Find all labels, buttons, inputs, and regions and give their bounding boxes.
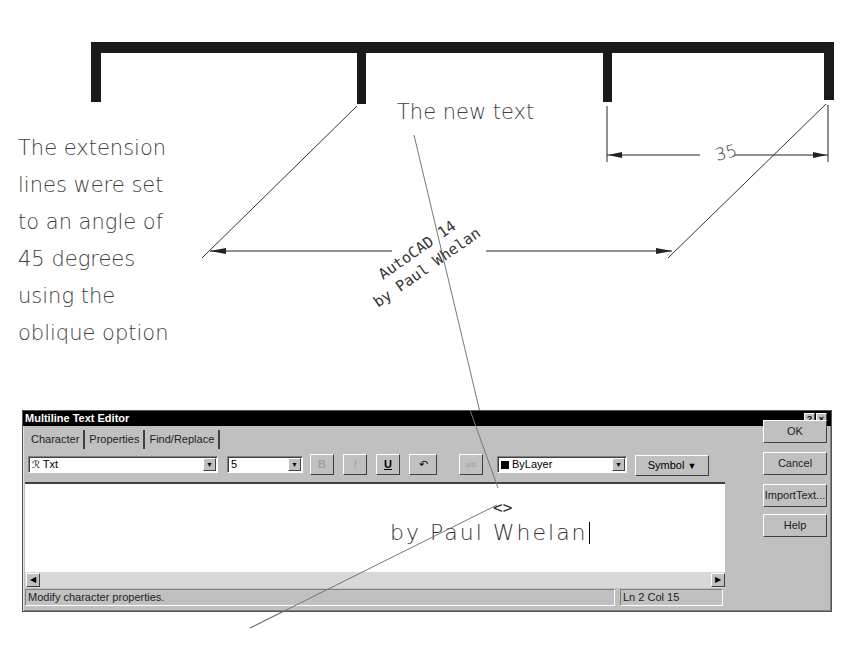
text-caret [589, 522, 590, 544]
scroll-right-icon[interactable]: ▶ [711, 573, 725, 587]
height-select[interactable]: 5 ▼ [227, 456, 303, 473]
frame-outline [91, 42, 834, 104]
editor-line-1: <> [493, 498, 512, 517]
bold-button[interactable]: B [310, 454, 334, 475]
cancel-button[interactable]: Cancel [763, 452, 827, 475]
tab-strip: Character Properties Find/Replace [27, 430, 220, 449]
oblique-dimension-text: AutoCAD 14 by Paul Whelan [359, 207, 484, 311]
color-select[interactable]: ByLayer ▼ [497, 456, 627, 473]
font-select[interactable]: ℛ Txt ▼ [28, 456, 218, 473]
side-note: The extension lines were set to an angle… [18, 130, 208, 352]
side-note-line: using the [18, 278, 208, 315]
side-note-line: The extension [18, 130, 208, 167]
import-text-button[interactable]: ImportText... [763, 484, 827, 507]
chevron-down-icon[interactable]: ▼ [288, 458, 301, 471]
cursor-position: Ln 2 Col 15 [620, 589, 723, 606]
horizontal-scrollbar[interactable]: ◀ ▶ [25, 572, 725, 588]
ok-button[interactable]: OK [763, 420, 827, 443]
undo-button[interactable]: ↶ [409, 454, 437, 475]
font-icon: ℛ [32, 459, 40, 470]
caret-down-icon: ▼ [687, 461, 696, 471]
color-swatch [501, 461, 509, 469]
editor-line-2-text: by Paul Whelan [390, 520, 588, 545]
underline-button[interactable]: U [376, 454, 400, 475]
dialog-title: Multiline Text Editor [25, 412, 129, 424]
chevron-down-icon[interactable]: ▼ [612, 458, 625, 471]
symbol-button-label: Symbol [648, 459, 685, 471]
tab-find-replace[interactable]: Find/Replace [145, 430, 220, 449]
side-note-line: to an angle of [18, 204, 208, 241]
chevron-down-icon[interactable]: ▼ [203, 458, 216, 471]
italic-button[interactable]: I [343, 454, 367, 475]
height-select-value: 5 [231, 458, 237, 470]
dimension-value-35: 35 [713, 140, 739, 165]
status-bar: Modify character properties. Ln 2 Col 15 [25, 589, 829, 607]
multiline-text-editor-dialog: Multiline Text Editor ? × Character Prop… [22, 410, 832, 612]
side-note-line: oblique option [18, 315, 208, 352]
scroll-left-icon[interactable]: ◀ [26, 573, 40, 587]
status-message: Modify character properties. [25, 589, 615, 606]
stack-button[interactable]: a/b [459, 454, 483, 475]
color-select-value: ByLayer [512, 458, 552, 470]
tab-character[interactable]: Character [27, 430, 85, 449]
dialog-titlebar[interactable]: Multiline Text Editor ? × [23, 411, 831, 426]
tab-properties[interactable]: Properties [85, 430, 145, 449]
text-editor-area[interactable]: <> by Paul Whelan [25, 482, 725, 574]
font-select-value: Txt [43, 458, 58, 470]
oblique-extension-lines [202, 104, 826, 258]
help-button[interactable]: Help [763, 514, 827, 537]
new-text-label: The new text [397, 100, 534, 124]
symbol-button[interactable]: Symbol ▼ [635, 455, 709, 476]
editor-line-2: by Paul Whelan [390, 520, 590, 545]
side-note-line: lines were set [18, 167, 208, 204]
side-note-line: 45 degrees [18, 241, 208, 278]
